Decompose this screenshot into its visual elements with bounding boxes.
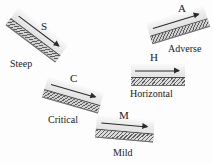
channel-band-horizontal xyxy=(131,64,185,86)
slope-diagram-horizontal xyxy=(131,64,185,86)
slope-label-steep: Steep xyxy=(10,59,32,69)
slope-label-critical: Critical xyxy=(48,115,78,125)
slope-label-horizontal: Horizontal xyxy=(130,89,173,99)
slope-letter-mild: M xyxy=(119,110,129,121)
channel-bed-horizontal xyxy=(131,77,185,86)
flow-arrow-icon-mild xyxy=(101,122,147,127)
flow-arrow-icon-horizontal xyxy=(135,70,178,71)
channel-band-steep xyxy=(6,8,69,63)
slope-classification-figure: S Steep C Critical M Mild H Horizont xyxy=(0,0,213,164)
slope-label-adverse: Adverse xyxy=(168,44,201,54)
slope-letter-adverse: A xyxy=(178,3,186,14)
slope-letter-steep: S xyxy=(41,21,47,32)
water-layer-horizontal xyxy=(131,64,185,77)
slope-letter-critical: C xyxy=(70,73,77,84)
slope-diagram-steep xyxy=(6,8,69,63)
slope-label-mild: Mild xyxy=(113,148,132,158)
slope-letter-horizontal: H xyxy=(150,52,158,63)
